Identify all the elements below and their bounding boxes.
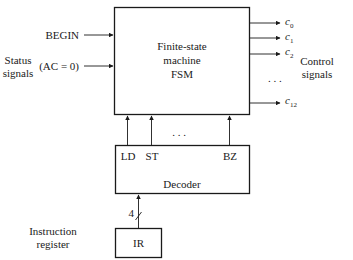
bz-label: BZ: [223, 150, 237, 162]
decoder-block: LD ST BZ Decoder: [116, 146, 250, 194]
control-signals-line1: Control: [300, 55, 334, 67]
fsm-control-unit-diagram: Finite-state machine FSM BEGIN (AC = 0) …: [0, 0, 353, 260]
ir-label: IR: [133, 237, 145, 249]
ir-bus: 4: [129, 195, 142, 228]
ld-label: LD: [121, 150, 136, 162]
st-label: ST: [146, 150, 159, 162]
ir-block: IR Instruction register: [29, 225, 161, 258]
status-signals-line1: Status: [5, 54, 32, 66]
control-outputs: c0 c1 c2 . . . c12 Control signals: [250, 15, 334, 109]
status-signals-line2: signals: [3, 67, 34, 79]
fsm-block: Finite-state machine FSM: [115, 8, 250, 115]
fsm-title-line1: Finite-state: [157, 40, 207, 52]
c12-label: c12: [285, 94, 297, 109]
decoder-outputs: . . .: [128, 116, 230, 145]
fsm-title-line2: machine: [163, 54, 200, 66]
bus-width-label: 4: [129, 207, 135, 219]
c1-label: c1: [285, 30, 294, 45]
instruction-register-line1: Instruction: [29, 225, 77, 237]
outputs-ellipsis: . . .: [268, 72, 282, 84]
decoder-lines-ellipsis: . . .: [172, 126, 186, 138]
input-signals: BEGIN (AC = 0) Status signals: [3, 29, 113, 79]
control-signals-line2: signals: [302, 68, 333, 80]
decoder-title: Decoder: [163, 178, 201, 190]
begin-label: BEGIN: [45, 29, 79, 41]
ac-zero-label: (AC = 0): [39, 60, 79, 73]
fsm-title-line3: FSM: [171, 68, 193, 80]
c0-label: c0: [285, 15, 294, 30]
instruction-register-line2: register: [37, 238, 70, 250]
c2-label: c2: [285, 45, 294, 60]
